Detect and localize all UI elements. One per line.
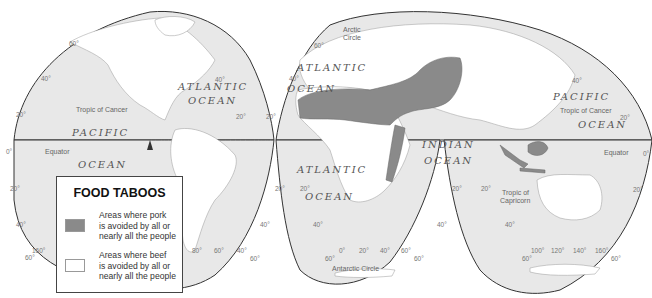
deg: 60°: [25, 255, 35, 262]
label-indian: INDIAN: [422, 140, 475, 150]
deg: 160°: [32, 248, 45, 255]
legend-box: FOOD TABOOS Areas where pork is avoided …: [56, 176, 183, 293]
deg: 160°: [595, 248, 608, 255]
deg: 60°: [325, 256, 335, 263]
deg: 20°: [300, 186, 310, 193]
label-tropic-cancer-east: Tropic of Cancer: [560, 107, 611, 114]
deg: 40°: [16, 222, 26, 229]
deg: 20°: [236, 114, 246, 121]
deg: 0°: [6, 149, 12, 156]
label-tropic-cancer-west: Tropic of Cancer: [76, 106, 127, 113]
label-pacific-west-ocean: OCEAN: [78, 160, 127, 170]
legend-title: FOOD TABOOS: [57, 186, 182, 200]
label-equator-west: Equator: [45, 148, 70, 155]
deg: 0°: [643, 151, 649, 158]
deg: 20°: [620, 115, 630, 122]
deg: 60°: [214, 248, 224, 255]
label-pacific-east-ocean: OCEAN: [578, 120, 627, 130]
deg: 20°: [275, 186, 285, 193]
deg: 60°: [414, 256, 424, 263]
deg: 40°: [289, 76, 299, 83]
deg: 40°: [437, 222, 447, 229]
label-antarctic-circle: Antarctic Circle: [332, 265, 379, 272]
beef-swatch: [65, 259, 85, 272]
label-atlantic-north: ATLANTIC: [178, 82, 248, 92]
deg: 80°: [192, 248, 202, 255]
deg: 60°: [314, 43, 324, 50]
label-atlantic-ne: ATLANTIC: [297, 63, 367, 73]
deg: 40°: [237, 248, 247, 255]
pork-swatch: [65, 219, 85, 232]
deg: 60°: [69, 41, 79, 48]
deg: 60°: [611, 256, 621, 263]
deg: 40°: [380, 248, 390, 255]
deg: 40°: [572, 78, 582, 85]
label-equator-east: Equator: [604, 149, 629, 156]
deg: 20°: [633, 187, 643, 194]
label-atlantic-south-ocean: OCEAN: [305, 192, 354, 202]
deg: 40°: [41, 76, 51, 83]
label-arctic-circle-2: Circle: [343, 34, 361, 41]
label-pacific-west: PACIFIC: [72, 128, 129, 138]
label-tropic-capricorn: Tropic of: [502, 189, 529, 196]
label-pacific-east: PACIFIC: [553, 92, 610, 102]
deg: 40°: [505, 222, 515, 229]
legend-beef-text: Areas where beef is avoided by all or ne…: [99, 250, 191, 282]
deg: 20°: [16, 112, 26, 119]
deg: 0°: [339, 248, 345, 255]
deg: 140°: [573, 248, 586, 255]
label-tropic-capricorn-2: Capricorn: [500, 197, 530, 204]
deg: 40°: [313, 222, 323, 229]
legend-item-pork: Areas where pork is avoided by all or ne…: [65, 210, 180, 244]
deg: 60°: [250, 256, 260, 263]
deg: 20°: [452, 186, 462, 193]
deg: 20°: [10, 186, 20, 193]
deg: 120°: [551, 248, 564, 255]
label-atlantic-north-ocean: OCEAN: [188, 96, 237, 106]
legend-item-beef: Areas where beef is avoided by all or ne…: [65, 250, 180, 284]
deg: 20°: [481, 186, 491, 193]
deg: 40°: [215, 77, 225, 84]
legend-pork-text: Areas where pork is avoided by all or ne…: [99, 210, 191, 242]
deg: 40°: [260, 222, 270, 229]
deg: 100°: [531, 248, 544, 255]
deg: 20°: [266, 114, 276, 121]
land-antarctica-australia: [530, 264, 600, 275]
label-atlantic-south: ATLANTIC: [297, 165, 367, 175]
label-arctic-circle: Arctic: [343, 26, 361, 33]
deg: 20°: [359, 248, 369, 255]
label-indian-ocean: OCEAN: [424, 156, 473, 166]
deg: 60°: [401, 248, 411, 255]
deg: 60°: [522, 256, 532, 263]
label-atlantic-ne-ocean: OCEAN: [287, 84, 336, 94]
